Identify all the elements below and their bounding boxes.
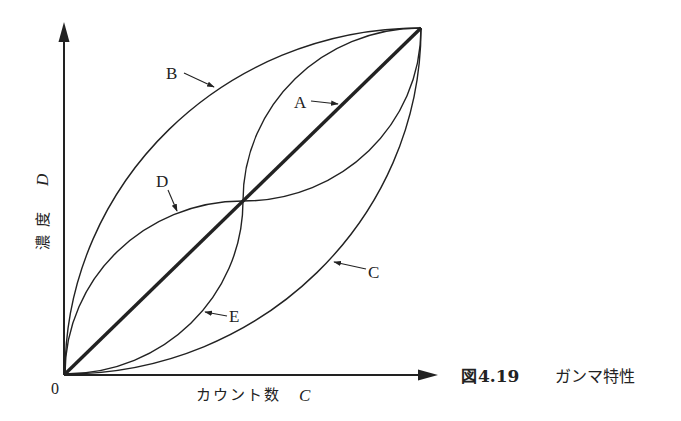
curve-a (65, 28, 421, 374)
label-b: B (166, 64, 177, 83)
caption-number: 4.19 (478, 366, 519, 386)
label-c: C (368, 263, 379, 282)
y-axis-arrowhead-icon (59, 22, 70, 42)
y-axis-label-text: 濃 度 (35, 210, 51, 250)
pointer-b (184, 73, 214, 87)
label-a: A (294, 93, 307, 112)
figure-caption: 図 4.19 ガンマ特性 (461, 366, 635, 386)
x-axis-label-var: C (299, 386, 311, 405)
y-axis-label-var: D (33, 173, 52, 187)
label-d: D (156, 172, 168, 191)
x-axis-label: カウント数 C (196, 386, 311, 405)
x-axis-label-text: カウント数 (196, 387, 281, 403)
curves (65, 28, 421, 374)
gamma-characteristic-diagram: B A D C E 0 カウント数 C 濃 度 D 図 4.19 ガンマ特性 (0, 0, 681, 421)
pointer-a (311, 101, 338, 104)
pointer-e (205, 312, 227, 316)
caption-prefix: 図 (461, 368, 477, 385)
x-axis-arrowhead-icon (418, 370, 438, 381)
origin-label: 0 (51, 380, 59, 397)
pointer-c (334, 262, 366, 269)
label-e: E (229, 307, 239, 326)
pointer-d (168, 190, 177, 211)
y-axis-label: 濃 度 D (33, 173, 52, 250)
caption-title: ガンマ特性 (555, 368, 635, 385)
